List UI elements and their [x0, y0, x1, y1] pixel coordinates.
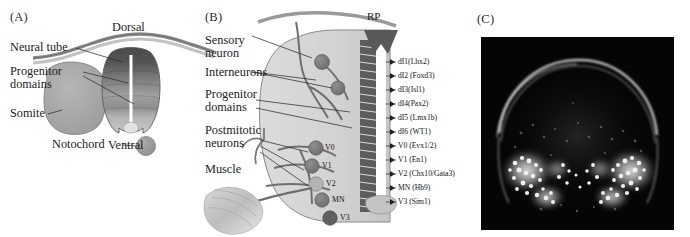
domain-label-di2: dI2 (Foxd3): [398, 71, 435, 80]
progenitor-domains-label-b-2: domains: [205, 101, 247, 114]
floor-plate-shape: [366, 196, 397, 215]
domain-label-v2: V2 (Chx10/Gata3): [398, 169, 455, 178]
domain-label-di4: dI4(Pax2): [398, 99, 428, 108]
sensory-neuron-label-2: neuron: [205, 47, 239, 60]
progenitor-stripe-zone: [360, 40, 386, 212]
interneurons-label: Interneurons: [205, 66, 267, 79]
interior-label-v2: V2: [326, 179, 336, 188]
domain-label-v3: V3 (Sim1): [398, 197, 430, 206]
interneuron-bodies: [331, 81, 345, 95]
figure-root: (A): [0, 0, 690, 237]
postmitotic-neurons-label-2: neurons: [205, 137, 244, 150]
somite-label: Somite: [10, 107, 45, 120]
interior-label-v3: V3: [340, 213, 350, 222]
interior-label-v1: V1: [322, 161, 332, 170]
domain-label-v0: V0 (Evx1/2): [398, 141, 436, 150]
domain-label-di1: dI1(Lhx2): [398, 57, 429, 66]
micrograph-image: [481, 37, 674, 230]
gene-leader-arrowheads: [390, 59, 395, 205]
muscle-label: Muscle: [205, 163, 241, 176]
sensory-neuron-shape: [315, 55, 330, 70]
progenitor-domains-label-2: domains: [10, 78, 52, 91]
muscle-shape: [204, 187, 263, 234]
panel-c-label: (C): [477, 12, 494, 27]
domain-label-v1: V1 (En1): [398, 155, 426, 164]
notochord-label: Notochord: [52, 138, 105, 151]
domain-label-di3: dI3(Isl1): [398, 85, 425, 94]
neural-tube-shape: [102, 48, 160, 134]
neural-tube-label: Neural tube: [10, 41, 68, 54]
domain-label-di5: dI5 (Lmx1b): [398, 113, 437, 122]
interior-label-mn: MN: [332, 195, 345, 204]
dorsal-label: Dorsal: [112, 21, 145, 34]
domain-label-mn: MN (Hb9): [398, 183, 430, 192]
interior-label-v0: V0: [325, 143, 335, 152]
ventral-label: Ventral: [108, 139, 144, 152]
roof-plate-label: RP: [367, 10, 380, 23]
domain-label-di6: dI6 (WT1): [398, 127, 431, 136]
